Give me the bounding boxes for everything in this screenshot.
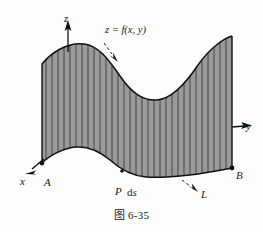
curve-L-label: L bbox=[201, 189, 207, 200]
point-B-label: B bbox=[236, 170, 243, 181]
surface-equation-label: z = f(x, y) bbox=[105, 25, 146, 36]
curve-L-leader-arrowhead bbox=[188, 184, 198, 193]
arc-element-s: s bbox=[133, 186, 137, 198]
arc-element-ds-label: ds bbox=[127, 187, 137, 198]
x-axis-label: x bbox=[20, 176, 25, 187]
x-axis-arrowhead bbox=[25, 171, 37, 175]
y-axis-label: y bbox=[246, 121, 251, 132]
point-A-label: A bbox=[44, 177, 51, 188]
figure-container: z y x A B L P ds z = f(x, y) 图 6-35 bbox=[0, 0, 263, 232]
surface-leader-arrowhead bbox=[109, 53, 118, 63]
curve-L-leader-dashes bbox=[182, 180, 190, 186]
y-axis-line bbox=[232, 126, 244, 127]
curve-L-leader bbox=[182, 180, 198, 192]
z-axis-label: z bbox=[64, 13, 68, 24]
figure-caption: 图 6-35 bbox=[0, 206, 263, 222]
surface-leader-dashes bbox=[104, 43, 112, 54]
point-B-dot bbox=[230, 166, 235, 171]
point-A-dot bbox=[40, 161, 45, 166]
point-P-label: P bbox=[115, 186, 122, 197]
cylindrical-surface bbox=[42, 20, 232, 200]
point-P-dot bbox=[120, 169, 124, 173]
